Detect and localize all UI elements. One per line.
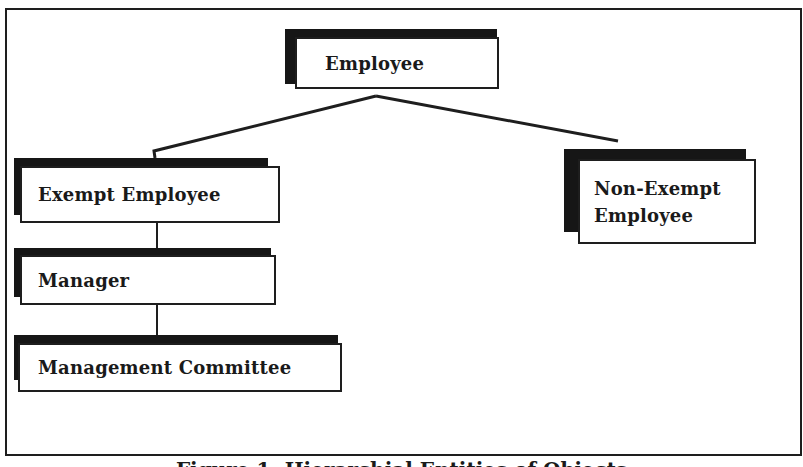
node-label: Manager [38, 269, 129, 292]
node-label-line2: Employee [594, 204, 693, 227]
node-box: Employee [295, 37, 499, 89]
node-box: Non-Exempt Employee [578, 159, 756, 244]
node-box: Management Committee [18, 343, 342, 392]
edge-employee-exempt [154, 96, 376, 158]
node-label: Management Committee [38, 356, 291, 379]
node-box: Exempt Employee [20, 166, 280, 223]
edge-employee-nonexempt [376, 96, 618, 141]
node-box: Manager [20, 255, 276, 305]
node-label: Employee [325, 52, 424, 75]
diagram-canvas: Employee Exempt Employee Non-Exempt Empl… [0, 0, 803, 467]
figure-caption: Figure 1: Hierarchial Entities of Object… [0, 458, 803, 467]
node-label-line1: Non-Exempt [594, 177, 721, 200]
node-label: Exempt Employee [38, 183, 221, 206]
